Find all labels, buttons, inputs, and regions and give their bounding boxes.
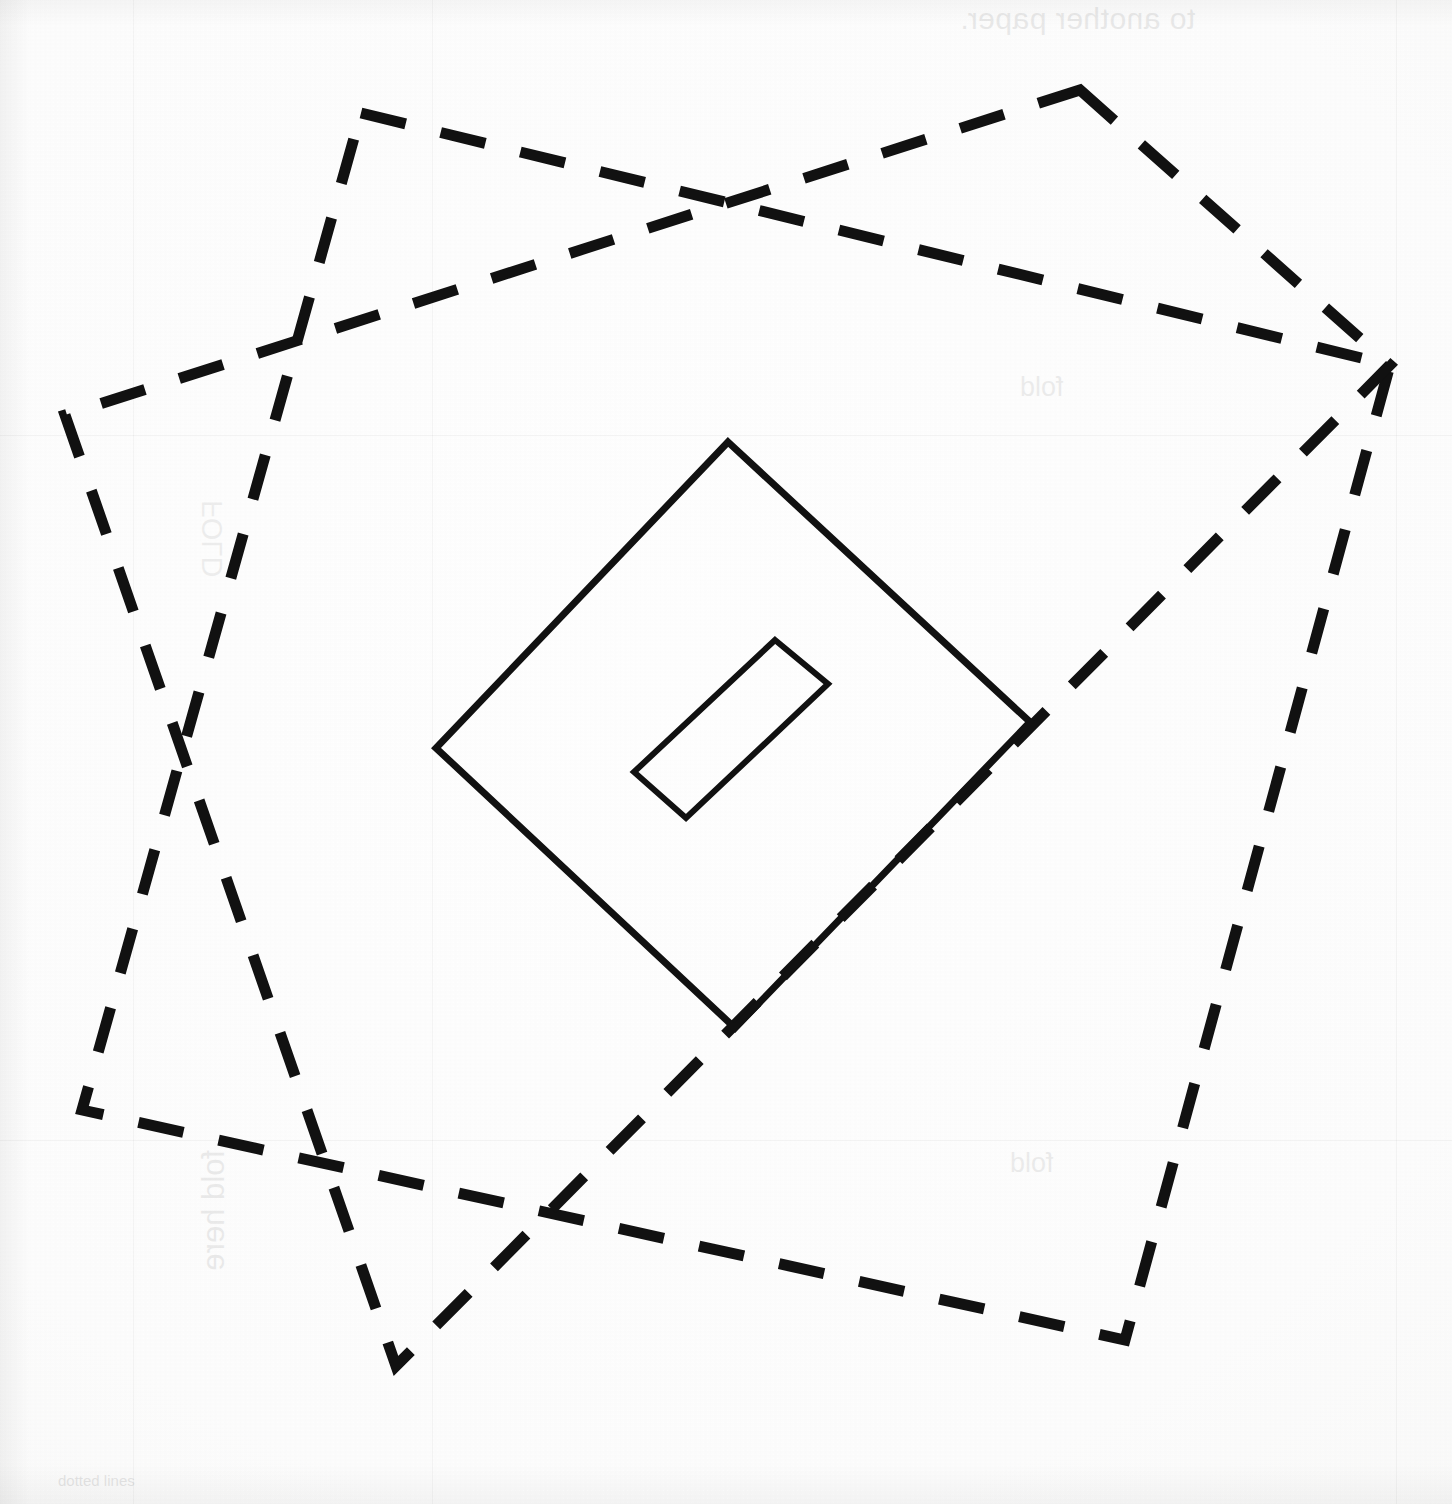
dashed-square-northeast-southwest — [65, 90, 1390, 1366]
paper-edge-shadow-top — [0, 0, 1452, 26]
dashed-square-northwest-southeast — [82, 113, 1390, 1340]
folding-diagram — [0, 0, 1452, 1504]
scanned-page: to another paper. fold fold FOLD fold he… — [0, 0, 1452, 1504]
paper-edge-shadow-left — [0, 0, 30, 1504]
dashed-lines-group — [65, 90, 1390, 1366]
solid-diamond — [436, 442, 1030, 1028]
paper-edge-shadow-bottom — [0, 1464, 1452, 1504]
inner-rectangle — [634, 640, 828, 818]
